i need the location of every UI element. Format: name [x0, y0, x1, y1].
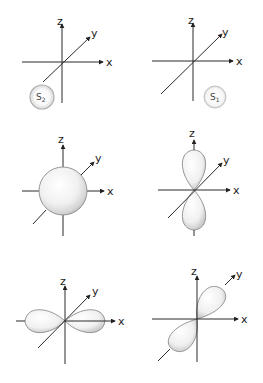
- y-axis-neg: [158, 349, 170, 361]
- y-axis: [43, 37, 90, 82]
- y-axis-label: y: [222, 26, 229, 39]
- z-axis-label: z: [189, 127, 195, 140]
- x-axis-label: x: [118, 315, 125, 328]
- panel-s-orbital: x z y: [22, 133, 114, 236]
- pz-lobe-lower: [182, 190, 205, 230]
- py-lobe-upper: [197, 286, 226, 319]
- y-axis-label: y: [223, 154, 230, 167]
- y-axis: [81, 162, 94, 175]
- z-axis-label: z: [60, 275, 66, 288]
- y-axis-neg: [33, 210, 46, 224]
- panel-py-orbital: x z y: [152, 265, 248, 362]
- y-axis-label: y: [91, 27, 98, 40]
- x-axis-label: x: [106, 56, 113, 69]
- panel-px-orbital: x z y: [16, 275, 125, 364]
- z-axis-label: z: [57, 15, 63, 28]
- x-axis-label: x: [107, 185, 114, 198]
- y-axis-label: y: [95, 152, 102, 165]
- orbital-diagram: x z y S2 x z y S1 x z y x z: [0, 0, 263, 383]
- x-axis-label: x: [241, 313, 248, 326]
- z-axis-label: z: [58, 133, 64, 146]
- y-axis: [225, 275, 235, 285]
- panel-s1: x z y S1: [152, 14, 243, 108]
- y-axis: [161, 34, 222, 94]
- x-axis-label: x: [233, 184, 240, 197]
- px-lobe-left: [25, 310, 65, 333]
- z-axis-label: z: [191, 265, 197, 278]
- y-axis-label: y: [236, 268, 243, 281]
- panel-pz-orbital: x z y: [158, 127, 240, 236]
- panel-s2: x z y S2: [22, 15, 113, 109]
- y-axis-label: y: [92, 285, 99, 298]
- x-axis-label: x: [236, 55, 243, 68]
- z-axis-label: z: [188, 14, 194, 27]
- py-lobe-lower: [168, 319, 197, 352]
- pz-lobe-upper: [182, 150, 205, 190]
- s-orbital-sphere: [39, 167, 87, 215]
